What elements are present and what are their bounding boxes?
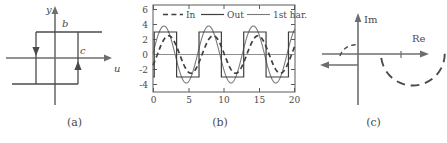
panel-a-point-label-b: b bbox=[62, 18, 68, 29]
panel-c-im-label: Im bbox=[364, 14, 378, 25]
x-tick-label-4: 20 bbox=[289, 95, 301, 105]
panel-a-y-label: y bbox=[45, 4, 52, 15]
panel-b: 6 4 2 0 -2 -4 0 5 10 15 20 bbox=[130, 0, 310, 143]
x-tick-label-1: 5 bbox=[186, 95, 192, 105]
figure-container: y u b c (a) bbox=[0, 0, 447, 143]
panel-c-diagram: Im Re bbox=[300, 0, 447, 115]
y-tick-label-4: -2 bbox=[139, 65, 148, 75]
y-axis-ticks bbox=[153, 10, 295, 85]
legend-label-out: Out bbox=[227, 10, 244, 20]
x-tick-label-2: 10 bbox=[218, 95, 230, 105]
y-axis bbox=[52, 6, 59, 105]
panel-b-chart: 6 4 2 0 -2 -4 0 5 10 15 20 bbox=[130, 0, 310, 115]
x-tick-label-3: 15 bbox=[254, 95, 266, 105]
y-tick-label-2: 2 bbox=[142, 35, 148, 45]
y-tick-label-0: 6 bbox=[142, 5, 148, 15]
legend-label-in: In bbox=[186, 10, 196, 20]
panel-c: Im Re (c) bbox=[300, 0, 447, 143]
panel-a-caption: (a) bbox=[0, 116, 149, 129]
panel-b-caption: (b) bbox=[130, 116, 310, 129]
panel-a-u-label: u bbox=[114, 63, 120, 74]
y-tick-label-1: 4 bbox=[142, 20, 148, 30]
panel-a: y u b c (a) bbox=[0, 0, 149, 143]
chart-legend: In Out 1st har. bbox=[163, 10, 307, 20]
re-axis bbox=[322, 51, 429, 58]
nyquist-arc bbox=[381, 54, 445, 86]
panel-c-re-label: Re bbox=[412, 33, 426, 44]
panel-a-point-label-c: c bbox=[80, 45, 86, 56]
y-tick-label-3: 0 bbox=[142, 50, 148, 60]
im-axis bbox=[355, 13, 362, 105]
panel-a-diagram: y u b c bbox=[0, 0, 149, 115]
u-axis bbox=[6, 55, 112, 62]
y-tick-label-5: -4 bbox=[139, 80, 148, 90]
negative-real-ray bbox=[320, 62, 358, 69]
panel-c-caption: (c) bbox=[300, 116, 447, 129]
x-tick-label-0: 0 bbox=[151, 95, 157, 105]
